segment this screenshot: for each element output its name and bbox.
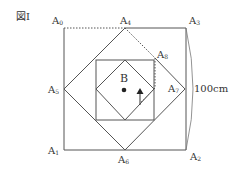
label-A0-sub: 0 (59, 19, 63, 26)
label-A8-sub: 8 (164, 53, 168, 60)
label-A8: A8 (157, 50, 168, 61)
path-A4-A8-dotted (125, 28, 155, 58)
label-A2: A2 (190, 152, 201, 163)
label-A5: A5 (48, 85, 59, 96)
label-A6: A6 (118, 155, 129, 166)
label-A0: A0 (52, 16, 63, 27)
label-A7-sub: 7 (175, 87, 179, 94)
label-A6-sub: 6 (125, 158, 129, 165)
label-A5-sub: 5 (55, 88, 59, 95)
arrow-head-icon (137, 88, 144, 94)
label-A2-sub: 2 (197, 155, 201, 162)
point-B-label: B (120, 74, 128, 84)
label-A7: A7 (168, 84, 179, 95)
label-A4-sub: 4 (127, 19, 131, 26)
label-A3-sub: 3 (196, 19, 200, 26)
label-A4: A4 (120, 16, 131, 27)
label-A1: A1 (48, 146, 59, 157)
dimension-arc (186, 28, 193, 150)
label-A3: A3 (189, 16, 200, 27)
figure-title: 図Ⅰ (16, 12, 30, 22)
point-B-dot (122, 88, 127, 93)
label-A1-sub: 1 (55, 149, 59, 156)
dimension-label: 100cm (194, 84, 228, 94)
